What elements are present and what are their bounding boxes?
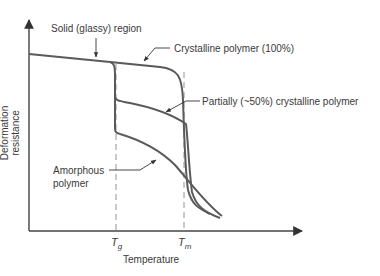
tg-main: T (111, 236, 118, 248)
x-axis-label: Temperature (123, 254, 179, 266)
diagram-canvas (0, 0, 380, 276)
tm-main: T (178, 236, 185, 248)
tm-tick-label: Tm (178, 236, 191, 251)
tg-sub: g (118, 242, 122, 251)
curves (29, 54, 222, 218)
partially-crystalline-label: Partially (~50%) crystalline polymer (202, 96, 358, 108)
tg-tick-label: Tg (111, 236, 122, 251)
amorphous-label-line1: Amorphous (53, 165, 104, 177)
curve-amorphous (120, 134, 222, 216)
amorphous-label-line2: polymer (53, 178, 89, 190)
solid-region-label: Solid (glassy) region (51, 23, 142, 35)
crystalline-label: Crystalline polymer (100%) (174, 43, 294, 55)
y-axis-label: Deformation resistance (0, 83, 21, 183)
tm-sub: m (185, 242, 192, 251)
